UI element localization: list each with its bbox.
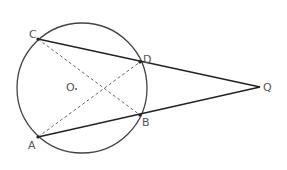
label-o: O xyxy=(66,81,75,94)
label-c: C xyxy=(29,28,37,41)
point-d-marker xyxy=(138,60,141,63)
label-q: Q xyxy=(263,81,272,94)
label-a: A xyxy=(28,139,36,152)
secant-aq xyxy=(38,87,260,137)
geometry-diagram: C D B A Q O xyxy=(0,0,287,170)
center-o-marker xyxy=(75,88,77,90)
point-a-marker xyxy=(36,135,39,138)
label-d: D xyxy=(143,53,151,66)
label-b: B xyxy=(142,116,150,129)
point-c-marker xyxy=(36,37,39,40)
circle-o xyxy=(17,23,147,153)
